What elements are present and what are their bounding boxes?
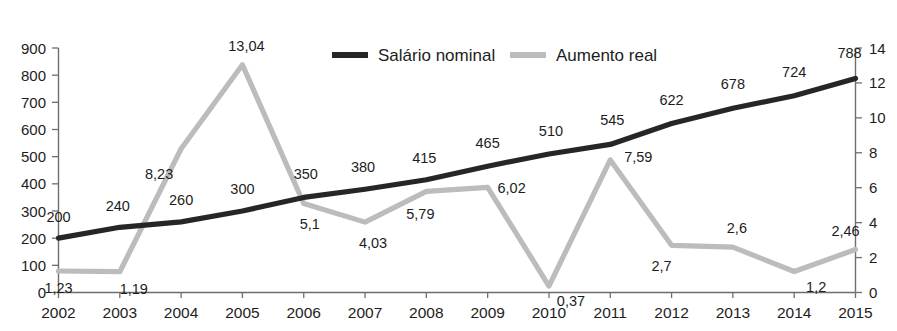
- legend-label: Aumento real: [556, 46, 657, 65]
- left-tick-label: 400: [21, 175, 46, 192]
- data-point-label: 1,23: [44, 280, 72, 296]
- data-point-label: 2,7: [651, 258, 671, 274]
- x-axis-year-label: 2003: [103, 304, 137, 321]
- data-point-label: 7,59: [624, 149, 652, 165]
- chart-figure: 0100200300400500600700800900 02468101214…: [0, 0, 897, 331]
- legend-label: Salário nominal: [378, 46, 495, 65]
- x-axis-year-label: 2011: [594, 304, 627, 321]
- x-axis-year-label: 2005: [225, 304, 259, 321]
- data-point-label: 1,19: [120, 281, 148, 297]
- x-axis-year-label: 2002: [41, 304, 75, 321]
- x-axis-group: 2002200320042005200620072008200920102011…: [41, 293, 872, 322]
- right-tick-label: 2: [869, 249, 877, 266]
- x-axis-year-label: 2014: [777, 304, 812, 321]
- data-point-label: 622: [659, 92, 683, 108]
- left-tick-label: 500: [21, 148, 46, 165]
- dual-axis-line-chart: 0100200300400500600700800900 02468101214…: [0, 0, 897, 331]
- data-point-label: 724: [782, 64, 806, 80]
- x-axis-year-label: 2006: [286, 304, 320, 321]
- left-tick-label: 600: [21, 121, 46, 138]
- chart-legend: Salário nominalAumento real: [332, 46, 657, 65]
- x-axis-tick-labels: 2002200320042005200620072008200920102011…: [41, 304, 872, 321]
- right-tick-label: 8: [869, 144, 877, 161]
- right-tick-label: 12: [869, 74, 886, 91]
- data-point-label: 0,37: [557, 293, 585, 309]
- series-layer: [59, 65, 856, 286]
- top-crop-artifact: [0, 0, 897, 12]
- data-point-label: 240: [106, 198, 130, 214]
- left-tick-label: 700: [21, 94, 46, 111]
- right-axis-ticks: [856, 48, 863, 293]
- right-tick-label: 4: [869, 214, 877, 231]
- left-axis-ticks: [52, 48, 59, 293]
- data-point-label: 545: [600, 112, 624, 128]
- x-axis-year-label: 2012: [654, 304, 688, 321]
- data-point-label: 5,79: [406, 206, 434, 222]
- data-point-label: 510: [539, 123, 563, 139]
- data-point-label: 260: [169, 192, 193, 208]
- data-point-label: 788: [837, 45, 861, 61]
- data-point-label: 300: [230, 181, 254, 197]
- data-point-label: 465: [476, 135, 500, 151]
- left-tick-label: 200: [21, 230, 46, 247]
- right-axis-tick-labels: 02468101214: [869, 40, 886, 302]
- data-point-label: 6,02: [498, 180, 526, 196]
- right-tick-label: 10: [869, 109, 886, 126]
- data-point-label: 1,2: [806, 279, 826, 295]
- data-point-label: 2,6: [727, 220, 747, 236]
- right-tick-label: 0: [869, 284, 877, 301]
- data-point-label: 350: [294, 166, 318, 182]
- left-tick-label: 900: [21, 40, 46, 57]
- x-axis-ticks: [59, 293, 856, 299]
- x-axis-year-label: 2013: [716, 304, 750, 321]
- x-axis-year-label: 2015: [838, 304, 872, 321]
- left-tick-label: 100: [21, 257, 46, 274]
- left-axis-group: 0100200300400500600700800900: [21, 40, 59, 302]
- right-axis-group: 02468101214: [856, 40, 886, 302]
- data-point-label: 13,04: [228, 38, 264, 54]
- data-point-label: 5,1: [300, 216, 320, 232]
- left-tick-label: 300: [21, 203, 46, 220]
- x-axis-year-label: 2009: [470, 304, 504, 321]
- left-tick-label: 800: [21, 67, 46, 84]
- x-axis-year-label: 2008: [409, 304, 443, 321]
- data-point-label: 4,03: [359, 235, 387, 251]
- data-point-label: 415: [412, 150, 436, 166]
- x-axis-year-label: 2004: [164, 304, 199, 321]
- data-point-label: 380: [351, 159, 375, 175]
- data-point-label: 678: [721, 76, 745, 92]
- data-point-label: 200: [46, 209, 70, 225]
- data-point-label: 8,23: [145, 166, 173, 182]
- right-tick-label: 6: [869, 179, 877, 196]
- data-point-label: 2,46: [831, 223, 859, 239]
- x-axis-year-label: 2007: [348, 304, 382, 321]
- left-axis-tick-labels: 0100200300400500600700800900: [21, 40, 46, 302]
- right-tick-label: 14: [869, 40, 886, 57]
